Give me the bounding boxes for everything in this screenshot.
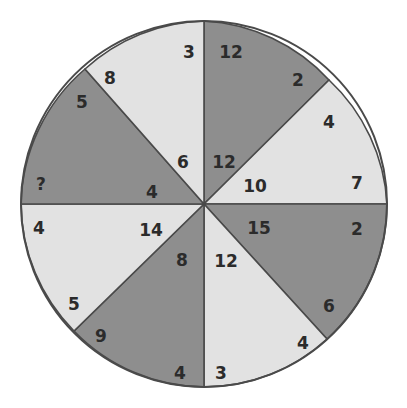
number-top-right-outer-a: 12 [219,42,243,62]
number-bottom-left-inner: 8 [176,250,188,270]
number-bottom-right-outer-a: 4 [297,333,309,353]
wheel-segments [21,21,387,387]
number-right-lower-inner: 15 [247,218,271,238]
number-top-left-inner: 6 [177,152,189,172]
number-bottom-right-inner: 12 [214,251,238,271]
number-right-upper-outer-a: 4 [323,112,335,132]
number-left-lower-outer-b: 4 [33,218,45,238]
number-left-upper-outer-b: 5 [76,92,88,112]
number-top-right-inner: 12 [212,152,236,172]
number-bottom-left-outer-b: 9 [95,326,107,346]
number-left-lower-inner: 14 [139,220,163,240]
number-top-right-outer-b: 2 [292,70,304,90]
number-top-left-outer-a: 8 [104,68,116,88]
number-right-upper-outer-b: 7 [351,173,363,193]
number-right-upper-inner: 10 [243,176,267,196]
number-wheel-puzzle: 122124710261543124985414?54836 [0,0,407,408]
number-right-lower-outer-b: 6 [323,296,335,316]
number-bottom-left-outer-a: 4 [174,363,186,383]
number-top-left-outer-b: 3 [183,42,195,62]
number-left-upper-inner: 4 [146,182,158,202]
number-left-lower-outer-a: 5 [68,294,80,314]
number-right-lower-outer-a: 2 [351,219,363,239]
missing-number-question-mark: ? [36,174,46,194]
number-bottom-right-outer-b: 3 [215,363,227,383]
